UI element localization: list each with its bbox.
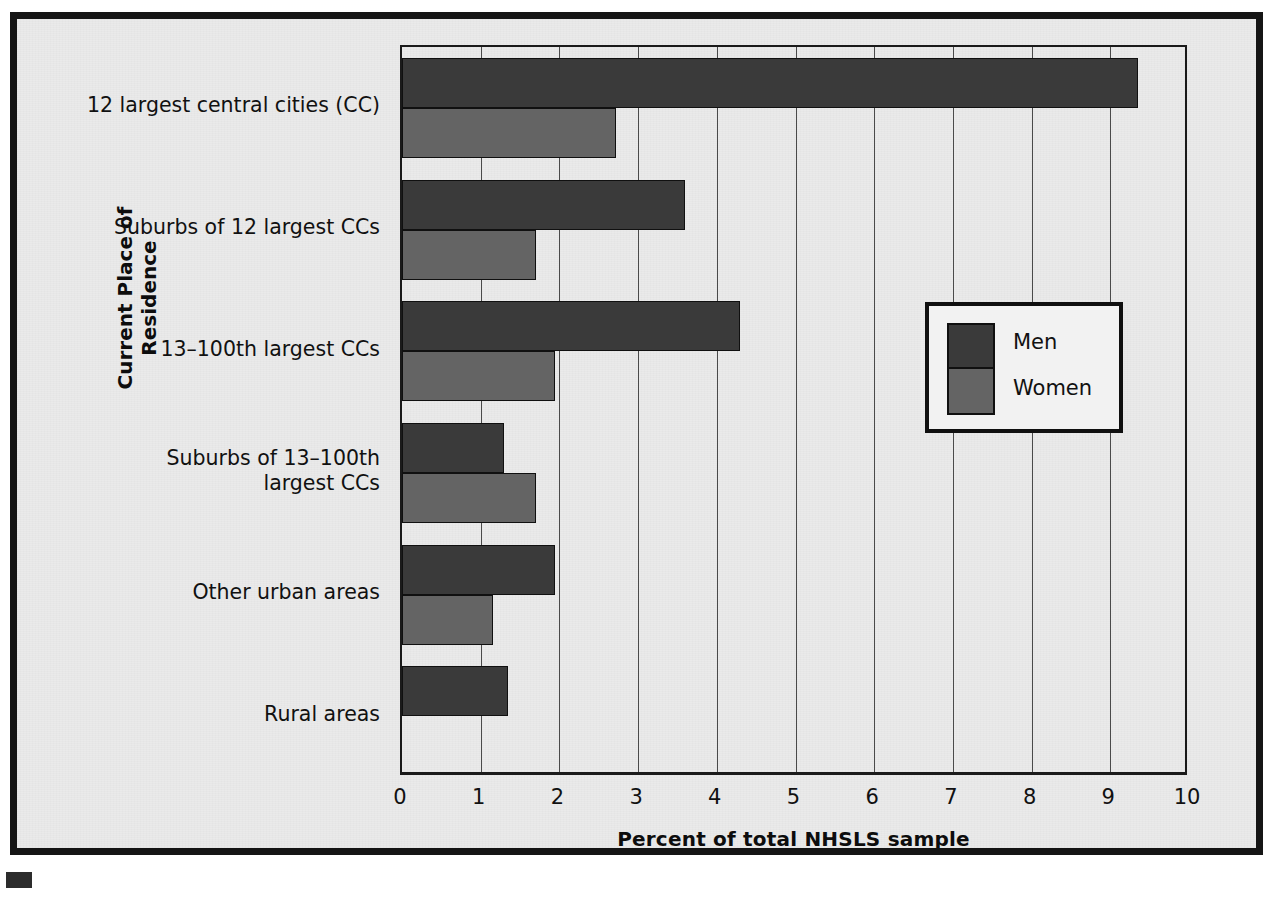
- scan-artifact-mark: [6, 872, 32, 888]
- legend-label-women: Women: [1013, 376, 1092, 400]
- bar-group: [402, 423, 1185, 523]
- bar-group: [402, 180, 1185, 280]
- legend-swatch-stack: [947, 323, 995, 415]
- x-tick-label: 4: [708, 785, 721, 809]
- bar-group: [402, 545, 1185, 645]
- x-tick-label: 1: [472, 785, 485, 809]
- bar-women: [402, 230, 536, 280]
- bar-women: [402, 595, 493, 645]
- bar-women: [402, 351, 555, 401]
- legend-label-men: Men: [1013, 330, 1057, 354]
- bar-men: [402, 666, 508, 716]
- bar-group: [402, 58, 1185, 158]
- x-tick-label: 8: [1023, 785, 1036, 809]
- x-tick-label: 7: [944, 785, 957, 809]
- bar-men: [402, 301, 740, 351]
- x-axis-tick-labels: 012345678910: [400, 785, 1187, 819]
- figure-canvas: Current Place of Residence 12 largest ce…: [17, 19, 1256, 848]
- y-tick-label: Other urban areas: [17, 580, 380, 605]
- bar-men: [402, 58, 1138, 108]
- x-tick-label: 3: [629, 785, 642, 809]
- x-tick-label: 5: [787, 785, 800, 809]
- x-tick-label: 0: [393, 785, 406, 809]
- legend-swatch-men: [949, 325, 993, 369]
- legend-swatch-women: [949, 369, 993, 413]
- bar-men: [402, 423, 504, 473]
- x-axis-title: Percent of total NHSLS sample: [400, 827, 1187, 848]
- y-tick-label: 12 largest central cities (CC): [17, 93, 380, 118]
- x-tick-label: 6: [866, 785, 879, 809]
- bar-group: [402, 666, 1185, 766]
- y-tick-label: 13–100th largest CCs: [17, 337, 380, 362]
- legend: Men Women: [925, 302, 1123, 433]
- y-tick-label: Rural areas: [17, 702, 380, 727]
- y-tick-label: Suburbs of 13–100th largest CCs: [17, 446, 380, 496]
- bar-men: [402, 545, 555, 595]
- bar-women: [402, 473, 536, 523]
- y-tick-label: Suburbs of 12 largest CCs: [17, 215, 380, 240]
- x-tick-label: 2: [551, 785, 564, 809]
- bar-men: [402, 180, 685, 230]
- x-tick-label: 10: [1174, 785, 1201, 809]
- bar-women: [402, 108, 616, 158]
- figure-frame: Current Place of Residence 12 largest ce…: [10, 12, 1263, 855]
- x-tick-label: 9: [1102, 785, 1115, 809]
- y-axis-tick-labels: 12 largest central cities (CC)Suburbs of…: [17, 45, 390, 775]
